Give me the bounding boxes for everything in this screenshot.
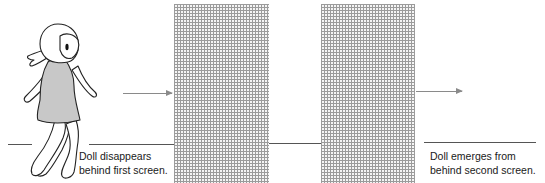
occlusion-diagram: Doll disappears behind first screen. Dol… <box>0 0 545 183</box>
caption-left-line2: behind first screen. <box>79 164 168 178</box>
ground-line-right <box>424 142 536 143</box>
first-screen <box>174 4 269 183</box>
ground-line-left-start <box>8 144 32 145</box>
ground-line-middle <box>269 143 321 144</box>
ground-line-left <box>89 144 174 145</box>
caption-right-line2: behind second screen. <box>430 164 536 178</box>
caption-right-line1: Doll emerges from <box>430 150 536 164</box>
caption-left-line1: Doll disappears <box>79 150 168 164</box>
caption-left: Doll disappears behind first screen. <box>79 150 168 177</box>
motion-arrow-left <box>123 93 172 94</box>
caption-right: Doll emerges from behind second screen. <box>430 150 536 177</box>
second-screen <box>321 4 415 183</box>
motion-arrow-right <box>416 91 462 92</box>
doll-eye <box>65 44 68 50</box>
